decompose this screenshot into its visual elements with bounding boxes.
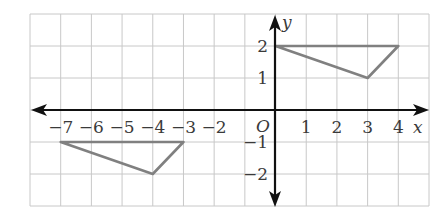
y-tick-label: 1 [257, 68, 268, 88]
coordinate-plane: y x O −7−6−5−4−3−21234 21−1−2 [0, 0, 446, 223]
x-axis-label: x [413, 117, 423, 137]
x-tick-label: 3 [362, 117, 373, 137]
x-tick-labels: −7−6−5−4−3−21234 [48, 117, 404, 137]
y-axis-label: y [281, 12, 292, 32]
x-tick-label: −4 [140, 117, 165, 137]
y-tick-label: 2 [257, 36, 268, 56]
x-tick-label: −7 [48, 117, 73, 137]
x-tick-label: 2 [332, 117, 343, 137]
x-tick-label: 1 [301, 117, 312, 137]
axes [31, 15, 429, 207]
y-tick-label: −1 [243, 132, 268, 152]
x-tick-label: −3 [171, 117, 196, 137]
x-tick-label: −2 [202, 117, 227, 137]
x-tick-label: −5 [110, 117, 135, 137]
y-tick-label: −2 [243, 164, 268, 184]
x-tick-label: 4 [393, 117, 404, 137]
x-tick-label: −6 [79, 117, 104, 137]
